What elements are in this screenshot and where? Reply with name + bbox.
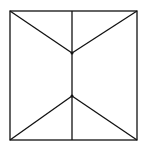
- diagonal-lines: [10, 11, 137, 140]
- outer-square: [10, 11, 137, 140]
- diagonal-top-left: [10, 11, 72, 53]
- diagonal-top-right: [72, 11, 137, 53]
- geometric-diagram: [0, 0, 145, 154]
- upper-junction-point: [71, 52, 74, 55]
- diagonal-bottom-left: [10, 96, 72, 140]
- lower-junction-point: [71, 95, 74, 98]
- diagonal-bottom-right: [72, 96, 137, 140]
